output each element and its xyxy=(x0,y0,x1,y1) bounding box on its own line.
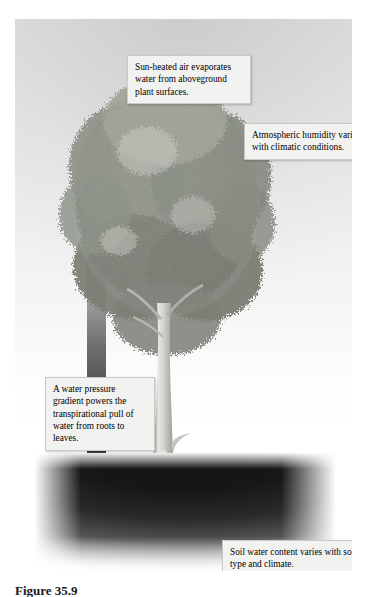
arrow-head-icon xyxy=(78,135,114,159)
callout-water-pressure-gradient: A water pressure gradient powers the tra… xyxy=(45,377,155,451)
callout-soil-water-content: Soil water content varies with soil type… xyxy=(222,540,352,571)
callout-humidity: Atmospheric humidity varies with climati… xyxy=(244,123,352,160)
callout-evaporation: Sun-heated air evaporates water from abo… xyxy=(127,55,251,104)
figure-page: Sun-heated air evaporates water from abo… xyxy=(0,0,366,597)
figure-illustration-plate: Sun-heated air evaporates water from abo… xyxy=(15,19,352,571)
figure-caption: Figure 35.9 xyxy=(15,583,345,597)
